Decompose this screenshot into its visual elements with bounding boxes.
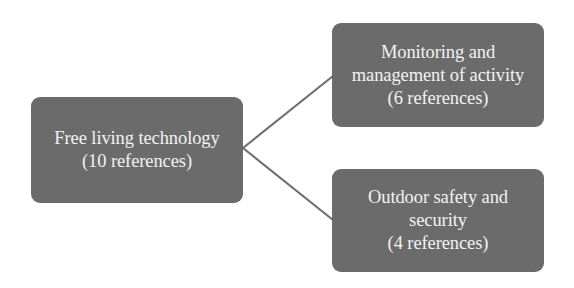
node-title-line-2: management of activity <box>352 64 524 87</box>
node-title-line-1: Outdoor safety and <box>368 186 508 209</box>
diagram-canvas: Free living technology (10 references) M… <box>0 0 574 288</box>
connector-root-to-outdoor <box>243 148 333 220</box>
node-title-line-2: security <box>409 209 467 232</box>
node-reference-count: (6 references) <box>388 87 489 110</box>
node-free-living-technology: Free living technology (10 references) <box>31 97 243 203</box>
node-title-line-1: Monitoring and <box>381 41 495 64</box>
connector-root-to-monitoring <box>243 76 333 148</box>
node-title: Free living technology <box>54 127 219 150</box>
node-reference-count: (10 references) <box>82 150 192 173</box>
node-monitoring-management-of-activity: Monitoring and management of activity (6… <box>332 23 544 127</box>
node-reference-count: (4 references) <box>388 232 489 255</box>
node-outdoor-safety-and-security: Outdoor safety and security (4 reference… <box>332 169 544 272</box>
